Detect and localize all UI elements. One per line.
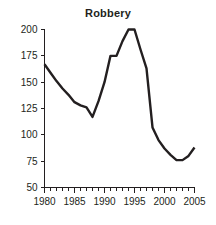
y-tick-label: 100 [21, 129, 38, 140]
y-tick-label: 125 [21, 103, 38, 114]
data-series-line [45, 30, 195, 161]
x-tick-label: 1995 [123, 196, 146, 207]
chart-figure: Robbery 5075100125150175200 198019851990… [0, 0, 216, 225]
chart-axes [45, 30, 195, 188]
x-tick-label: 1990 [93, 196, 116, 207]
y-tick-label: 50 [26, 182, 38, 193]
y-tick-label: 75 [26, 156, 38, 167]
x-tick-label: 2005 [183, 196, 206, 207]
y-tick-label: 200 [21, 24, 38, 35]
x-tick-label: 1980 [33, 196, 56, 207]
x-axis-tick-labels: 198019851990199520002005 [33, 196, 206, 207]
x-tick-label: 2000 [153, 196, 176, 207]
line-chart-plot: 5075100125150175200 19801985199019952000… [0, 0, 216, 225]
x-tick-label: 1985 [63, 196, 86, 207]
x-axis-major-ticks [45, 188, 195, 193]
y-tick-label: 175 [21, 50, 38, 61]
y-axis-tick-labels: 5075100125150175200 [21, 24, 38, 193]
y-tick-label: 150 [21, 77, 38, 88]
